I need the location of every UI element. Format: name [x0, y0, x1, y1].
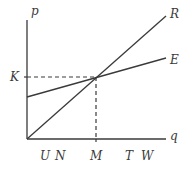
curve-label-r: R: [169, 7, 179, 21]
y-mark-k: K: [9, 70, 20, 84]
x-mark-u: U: [40, 149, 51, 163]
x-axis-label: q: [170, 129, 178, 143]
supply-demand-diagram: p q R E K U N M T W: [0, 0, 188, 173]
x-mark-t: T: [125, 149, 134, 163]
curve-label-e: E: [169, 53, 179, 67]
x-mark-m: M: [89, 149, 103, 163]
x-mark-w: W: [141, 149, 155, 163]
y-axis-label: p: [31, 4, 39, 18]
x-mark-n: N: [54, 149, 66, 163]
